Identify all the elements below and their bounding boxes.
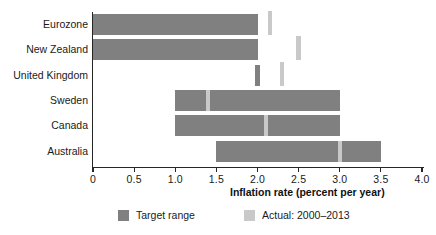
chart-legend: Target range Actual: 2000–2013 xyxy=(0,207,436,229)
x-axis-tick-label: 0 xyxy=(76,173,110,185)
x-axis-tick xyxy=(175,167,176,172)
target-range-bar xyxy=(93,39,258,60)
x-axis-tick-label: 3.0 xyxy=(323,173,357,185)
actual-value-marker xyxy=(338,141,342,162)
legend-swatch-target-range xyxy=(118,210,129,221)
x-axis-tick xyxy=(421,167,422,172)
inflation-target-chart: EurozoneNew ZealandUnited KingdomSwedenC… xyxy=(0,0,436,235)
target-range-bar xyxy=(255,65,259,86)
y-axis-label-sweden: Sweden xyxy=(4,94,88,106)
y-axis-label-australia: Australia xyxy=(4,145,88,157)
y-axis-label-canada: Canada xyxy=(4,119,88,131)
x-axis-tick-label: 4.0 xyxy=(405,173,436,185)
x-axis-tick xyxy=(134,167,135,172)
actual-value-marker xyxy=(280,62,284,86)
legend-item-target-range: Target range xyxy=(118,209,195,221)
legend-item-actual: Actual: 2000–2013 xyxy=(244,209,350,221)
legend-swatch-actual xyxy=(244,210,255,221)
x-axis-tick xyxy=(298,167,299,172)
x-axis-tick-label: 0.5 xyxy=(117,173,151,185)
y-axis-label-united-kingdom: United Kingdom xyxy=(4,69,88,81)
chart-row xyxy=(93,115,422,136)
x-axis-tick-label: 1.0 xyxy=(158,173,192,185)
x-axis-tick-label: 2.0 xyxy=(241,173,275,185)
target-range-bar xyxy=(216,141,381,162)
x-axis-tick xyxy=(257,167,258,172)
chart-row xyxy=(93,90,422,111)
chart-row xyxy=(93,39,422,60)
chart-row xyxy=(93,65,422,86)
target-range-bar xyxy=(175,90,340,111)
actual-value-marker xyxy=(268,11,272,35)
legend-label-target-range: Target range xyxy=(136,209,195,221)
x-axis-tick-label: 2.5 xyxy=(282,173,316,185)
chart-row xyxy=(93,14,422,35)
x-axis-tick xyxy=(92,167,93,172)
target-range-bar xyxy=(93,14,258,35)
actual-value-marker xyxy=(264,115,268,136)
x-axis-tick-label: 3.5 xyxy=(364,173,398,185)
chart-row xyxy=(93,141,422,162)
y-axis-label-eurozone: Eurozone xyxy=(4,18,88,30)
actual-value-marker xyxy=(296,36,300,60)
x-axis-tick-label: 1.5 xyxy=(199,173,233,185)
y-axis-category-labels: EurozoneNew ZealandUnited KingdomSwedenC… xyxy=(0,0,88,170)
target-range-bar xyxy=(175,115,340,136)
x-axis-tick xyxy=(339,167,340,172)
x-axis-title: Inflation rate (percent per year) xyxy=(230,186,385,198)
plot-area xyxy=(93,14,422,166)
actual-value-marker xyxy=(206,90,210,111)
legend-label-actual: Actual: 2000–2013 xyxy=(262,209,350,221)
x-axis-tick xyxy=(216,167,217,172)
y-axis-label-new-zealand: New Zealand xyxy=(4,43,88,55)
x-axis-tick xyxy=(380,167,381,172)
